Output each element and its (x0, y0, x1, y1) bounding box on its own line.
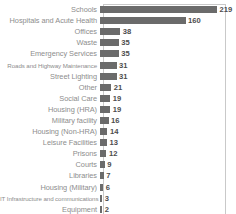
bar-row: Hospitals and Acute Health 160 (0, 15, 236, 26)
bar-military-facility (100, 117, 109, 124)
category-label: Housing (Non-HRA) (0, 127, 100, 136)
category-label: Courts (0, 160, 100, 169)
bar-track: 3 (100, 193, 236, 204)
bar-row: IT Infrastructure and communications 3 (0, 193, 236, 204)
bar-track: 31 (100, 71, 236, 82)
bar-row: Waste 35 (0, 37, 236, 48)
category-label: Offices (0, 27, 100, 36)
bar-chart: Schools 219 Hospitals and Acute Health 1… (0, 0, 236, 214)
value-label: 7 (104, 171, 111, 180)
bar-track: 14 (100, 126, 236, 137)
category-label: Prisons (0, 149, 100, 158)
category-label: Libraries (0, 171, 100, 180)
category-label: Roads and Highway Maintenance (0, 61, 100, 70)
bar-schools (100, 6, 217, 13)
value-label: 12 (106, 149, 117, 158)
value-label: 219 (217, 5, 232, 14)
bar-rows-container: Schools 219 Hospitals and Acute Health 1… (0, 4, 236, 214)
value-label: 16 (109, 116, 120, 125)
category-label: Military facility (0, 116, 100, 125)
bar-emergency-services (100, 50, 119, 57)
category-label: Street Lighting (0, 72, 100, 81)
bar-roads-and-highway-maintenance (100, 62, 117, 69)
bar-row: Housing (HRA) 19 (0, 104, 236, 115)
category-label: Other (0, 83, 100, 92)
bar-track: 35 (100, 37, 236, 48)
bar-track: 38 (100, 26, 236, 37)
bar-track: 31 (100, 59, 236, 70)
bar-waste (100, 39, 119, 46)
bar-social-care (100, 95, 110, 102)
value-label: 160 (186, 16, 201, 25)
bar-row: Military facility 16 (0, 115, 236, 126)
bar-row: Prisons 12 (0, 148, 236, 159)
bar-street-lighting (100, 73, 117, 80)
category-label: Housing (HRA) (0, 105, 100, 114)
bar-track: 13 (100, 137, 236, 148)
bar-leisure-facilities (100, 139, 107, 146)
category-label: Social Care (0, 94, 100, 103)
bar-row: Other 21 (0, 82, 236, 93)
bar-row: Offices 38 (0, 26, 236, 37)
value-label: 13 (107, 138, 118, 147)
value-label: 35 (119, 49, 130, 58)
category-label: Waste (0, 38, 100, 47)
category-label: Hospitals and Acute Health (0, 16, 100, 25)
value-label: 21 (111, 83, 122, 92)
category-label: Schools (0, 5, 100, 14)
value-label: 31 (117, 61, 128, 70)
bar-track: 19 (100, 104, 236, 115)
bar-track: 19 (100, 93, 236, 104)
value-label: 19 (110, 94, 121, 103)
bar-track: 6 (100, 182, 236, 193)
bar-track: 16 (100, 115, 236, 126)
bar-row: Street Lighting 31 (0, 71, 236, 82)
category-label: Leisure Facilities (0, 138, 100, 147)
category-label: IT Infrastructure and communications (0, 194, 100, 203)
value-label: 31 (117, 72, 128, 81)
category-label: Emergency Services (0, 49, 100, 58)
bar-hospitals-and-acute-health (100, 17, 186, 24)
value-label: 6 (103, 183, 110, 192)
bar-row: Roads and Highway Maintenance 31 (0, 59, 236, 70)
bar-track: 7 (100, 170, 236, 181)
bar-offices (100, 28, 120, 35)
bar-row: Libraries 7 (0, 170, 236, 181)
bar-housing-non-hra (100, 128, 107, 135)
category-label: Housing (Military) (0, 183, 100, 192)
bar-track: 12 (100, 148, 236, 159)
value-label: 3 (102, 194, 109, 203)
bar-row: Social Care 19 (0, 93, 236, 104)
bar-row: Equipment 2 (0, 204, 236, 214)
bar-row: Schools 219 (0, 4, 236, 15)
value-label: 19 (110, 105, 121, 114)
bar-row: Housing (Non-HRA) 14 (0, 126, 236, 137)
value-label: 38 (120, 27, 131, 36)
bar-row: Courts 9 (0, 159, 236, 170)
category-label: Equipment (0, 205, 100, 214)
bar-housing-hra (100, 106, 110, 113)
bar-other (100, 84, 111, 91)
bar-track: 2 (100, 204, 236, 214)
bar-row: Leisure Facilities 13 (0, 137, 236, 148)
bar-track: 9 (100, 159, 236, 170)
bar-track: 160 (100, 15, 236, 26)
value-label: 14 (107, 127, 118, 136)
bar-row: Housing (Military) 6 (0, 182, 236, 193)
bar-track: 21 (100, 82, 236, 93)
value-label: 2 (102, 205, 109, 214)
value-label: 35 (119, 38, 130, 47)
value-label: 9 (105, 160, 112, 169)
bar-row: Emergency Services 35 (0, 48, 236, 59)
bar-track: 35 (100, 48, 236, 59)
bar-track: 219 (100, 4, 236, 15)
